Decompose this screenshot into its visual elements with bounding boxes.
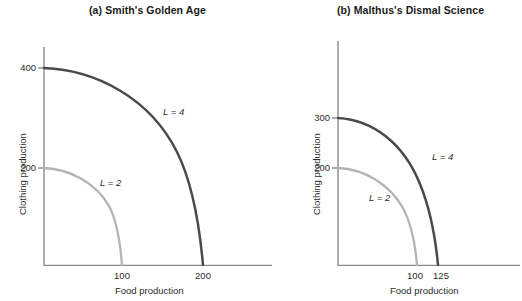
figure-container: (a) Smith's Golden Age (b) Malthus's Dis… (0, 0, 522, 301)
panel-b-label-l2: L = 2 (369, 192, 390, 203)
panel-b-label-l4: L = 4 (432, 151, 453, 162)
panel-a-xtick-label-200: 200 (183, 270, 223, 281)
panel-b-curve-l2 (338, 168, 417, 265)
panel-a-x-axis-title: Food production (115, 285, 184, 296)
panel-a-y-axis-title: Clothing production (17, 133, 28, 215)
panel-a-axes (38, 47, 272, 266)
panel-a-xtick-label-100: 100 (102, 270, 142, 281)
panel-a-curve-l4 (44, 68, 203, 265)
panel-b-y-axis-title: Clothing production (311, 133, 322, 215)
panel-a-label-l2: L = 2 (100, 177, 121, 188)
panel-a-label-l4: L = 4 (163, 106, 184, 117)
panel-b-xtick-label-125: 125 (424, 270, 458, 281)
panel-a-ytick-label-400: 400 (8, 62, 36, 73)
panel-b-ytick-label-300: 300 (302, 112, 330, 123)
panel-b-x-axis-title: Food production (390, 285, 459, 296)
panel-b-axes (332, 41, 520, 266)
